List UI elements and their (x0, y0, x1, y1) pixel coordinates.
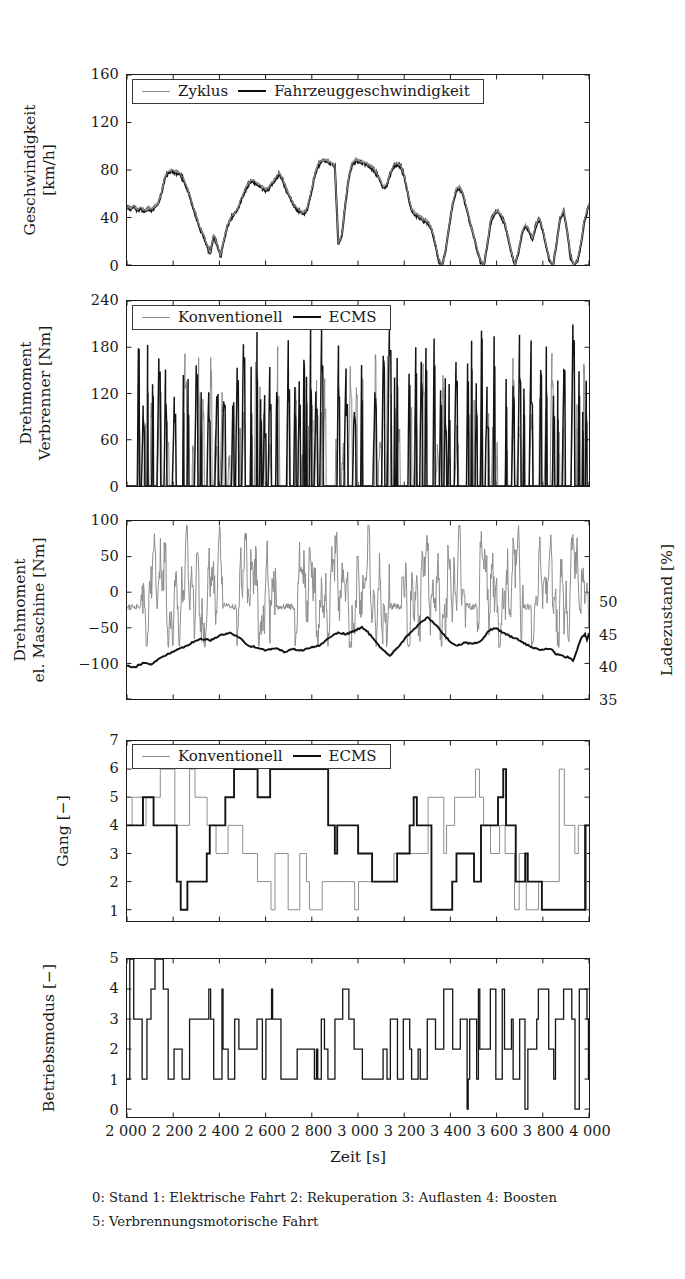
ytick-motor-0: 0 (110, 585, 119, 600)
ytick-soc-50: 50 (599, 595, 617, 610)
ytick-mode-1: 1 (110, 1072, 119, 1087)
ytick-soc-35: 35 (599, 693, 617, 708)
xtick-3200: 3 200 (384, 1124, 426, 1139)
xtick-3600: 3 600 (476, 1124, 518, 1139)
plot-area-motor-torque (126, 520, 590, 700)
legend-label-konventionell: Konventionell (178, 308, 283, 326)
ytick-speed-160: 160 (91, 67, 119, 82)
xtick-3400: 3 400 (430, 1124, 472, 1139)
mode-trace (127, 959, 589, 1117)
panel-speed: Geschwindigkeit [km/h] 160 120 80 40 0 Z… (126, 74, 590, 266)
axis-label-time: Zeit [s] (330, 1148, 386, 1166)
legend-label-fahrzeuggeschwindigkeit: Fahrzeuggeschwindigkeit (274, 82, 470, 100)
axis-label-engine-torque: Drehmoment Verbrenner [Nm] (17, 326, 56, 461)
axis-label-engine-torque-line1: Drehmoment (17, 341, 35, 444)
legend-label-zyklus: Zyklus (178, 82, 228, 100)
legend-gear: Konventionell ECMS (132, 744, 391, 769)
legend-line-ecms-icon (293, 316, 321, 318)
ytick-gear-7: 7 (110, 733, 119, 748)
axis-label-gear: Gang [−] (55, 795, 72, 867)
plot-area-mode (126, 958, 590, 1118)
xtick-2000: 2 000 (105, 1124, 147, 1139)
axis-label-speed-line2: [km/h] (40, 105, 59, 236)
xtick-3000: 3 000 (337, 1124, 379, 1139)
xtick-4000: 4 000 (569, 1124, 611, 1139)
ytick-mode-3: 3 (110, 1012, 119, 1027)
axis-label-motor-torque: Drehmoment el. Maschine [Nm] (11, 537, 50, 682)
legend-line-fahrzeug-icon (238, 90, 266, 92)
ytick-gear-4: 4 (110, 818, 119, 833)
ytick-mode-5: 5 (110, 951, 119, 966)
xtick-3800: 3 800 (523, 1124, 565, 1139)
ytick-mode-0: 0 (110, 1103, 119, 1118)
panel-gear: Gang [−] 7 6 5 4 3 2 1 Konventionell ECM… (126, 740, 590, 922)
panel-motor-torque: Drehmoment el. Maschine [Nm] 100 50 0 −5… (126, 520, 590, 700)
ytick-gear-6: 6 (110, 761, 119, 776)
ytick-speed-80: 80 (100, 163, 119, 178)
legend-line-zyklus-icon (142, 91, 170, 92)
axis-label-speed: Geschwindigkeit [km/h] (21, 105, 60, 236)
legend-label-konventionell-gear: Konventionell (178, 747, 283, 765)
ytick-motor-m50: −50 (88, 621, 119, 636)
panel-engine-torque: Drehmoment Verbrenner [Nm] 240 180 120 6… (126, 300, 590, 487)
ytick-engine-60: 60 (100, 433, 119, 448)
figure-root: Geschwindigkeit [km/h] 160 120 80 40 0 Z… (0, 0, 685, 1279)
legend-speed: Zyklus Fahrzeuggeschwindigkeit (132, 79, 484, 104)
ytick-speed-0: 0 (110, 259, 119, 274)
legend-line-konventionell-icon (142, 317, 170, 318)
ytick-engine-120: 120 (91, 386, 119, 401)
axis-label-engine-torque-line2: Verbrenner [Nm] (36, 326, 55, 461)
ytick-gear-1: 1 (110, 903, 119, 918)
panel-mode: Betriebsmodus [−] 5 4 3 2 1 0 2 000 2 20… (126, 958, 590, 1118)
legend-engine-torque: Konventionell ECMS (132, 305, 391, 330)
ytick-motor-50: 50 (100, 549, 119, 564)
ytick-speed-40: 40 (100, 211, 119, 226)
xtick-2800: 2 800 (291, 1124, 333, 1139)
axis-label-motor-torque-line2: el. Maschine [Nm] (30, 537, 49, 682)
caption-line-2: 5: Verbrennungsmotorische Fahrt (92, 1212, 318, 1232)
legend-label-ecms-gear: ECMS (329, 747, 377, 765)
ytick-gear-5: 5 (110, 790, 119, 805)
axis-label-gear-text: Gang [−] (54, 795, 72, 867)
axis-label-mode-text: Betriebsmodus [−] (40, 964, 58, 1112)
ytick-motor-m100: −100 (78, 657, 119, 672)
axis-label-soc: Ladezustand [%] (659, 544, 676, 676)
xtick-2400: 2 400 (198, 1124, 240, 1139)
ytick-soc-45: 45 (599, 627, 617, 642)
xtick-2200: 2 200 (152, 1124, 194, 1139)
caption-line-1: 0: Stand 1: Elektrische Fahrt 2: Rekuper… (92, 1188, 557, 1208)
ytick-speed-120: 120 (91, 115, 119, 130)
axis-label-motor-torque-line1: Drehmoment (11, 558, 29, 661)
ytick-engine-0: 0 (110, 480, 119, 495)
ytick-motor-100: 100 (91, 513, 119, 528)
legend-line-ecms-gear-icon (293, 755, 321, 757)
axis-label-soc-text: Ladezustand [%] (658, 544, 676, 676)
legend-line-konventionell-gear-icon (142, 756, 170, 757)
ytick-engine-240: 240 (91, 293, 119, 308)
ytick-engine-180: 180 (91, 340, 119, 355)
axis-label-speed-line1: Geschwindigkeit (21, 105, 39, 236)
ytick-mode-2: 2 (110, 1042, 119, 1057)
ytick-soc-40: 40 (599, 660, 617, 675)
axis-label-mode: Betriebsmodus [−] (41, 964, 58, 1112)
legend-label-ecms: ECMS (329, 308, 377, 326)
ytick-gear-3: 3 (110, 847, 119, 862)
ytick-mode-4: 4 (110, 981, 119, 996)
motor-torque-traces (127, 521, 589, 699)
xtick-2600: 2 600 (244, 1124, 286, 1139)
ytick-gear-2: 2 (110, 875, 119, 890)
